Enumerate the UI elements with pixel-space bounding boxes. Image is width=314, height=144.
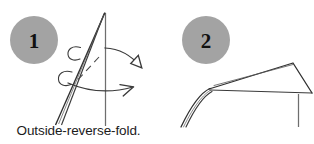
step-badge-number: 1 xyxy=(29,29,40,53)
step-1-badge: 1 xyxy=(10,16,58,64)
flap-upper-edges xyxy=(209,63,312,93)
step-panel-1: 1 Outside-reverse-fold. xyxy=(0,0,157,144)
upper-curved-arrow xyxy=(105,48,141,67)
paper-edge-back xyxy=(62,14,105,126)
upper-wrap-loop xyxy=(68,47,81,60)
paper-inner-crease xyxy=(59,15,104,124)
origami-instruction-figure: 1 Outside-reverse-fold. xyxy=(0,0,314,144)
figure-caption: Outside-reverse-fold. xyxy=(0,123,157,138)
leg-edge-front xyxy=(181,89,210,128)
lower-curved-arrow xyxy=(68,83,133,91)
flap-lower-edge xyxy=(210,90,312,93)
step-badge-number: 2 xyxy=(201,29,212,53)
step-panel-2: 2 xyxy=(157,0,314,144)
step-2-badge: 2 xyxy=(182,16,230,64)
flap-inner-crease xyxy=(214,65,293,86)
step-2-diagram: 2 xyxy=(157,0,314,144)
